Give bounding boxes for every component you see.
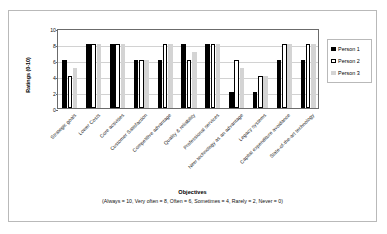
bar (306, 44, 311, 108)
chart-legend: Person 1Person 2Person 3 (327, 39, 372, 83)
bar (192, 52, 197, 108)
x-axis-scale-note: (Always = 10, Very often = 8, Often = 6,… (9, 198, 376, 204)
bar-group (153, 30, 177, 108)
bar-group (296, 30, 320, 108)
bar (258, 76, 263, 108)
legend-swatch-icon (331, 71, 336, 76)
bar (301, 60, 306, 108)
bar (216, 44, 221, 108)
bar-group (201, 30, 225, 108)
bar (181, 44, 186, 108)
bar (311, 44, 316, 108)
bar (144, 60, 149, 108)
bar-group (177, 30, 201, 108)
bar (73, 68, 78, 108)
bar (86, 44, 91, 108)
x-axis-tick-label: Strategic goals (49, 112, 77, 140)
legend-item: Person 1 (331, 43, 369, 55)
bars-layer (58, 30, 318, 108)
bar (163, 44, 168, 108)
bar (229, 92, 234, 108)
bar-group (58, 30, 82, 108)
bar (277, 60, 282, 108)
bar (139, 60, 144, 108)
bar (158, 60, 163, 108)
bar (134, 60, 139, 108)
bar-group (249, 30, 273, 108)
bar (211, 44, 216, 108)
figure-frame: Ratings (0-10) 0246810 Strategic goalsLo… (8, 10, 377, 222)
x-axis-tick-label: State-of-the-art technology (268, 112, 315, 159)
bar (121, 44, 126, 108)
x-axis-title-block: Objectives (Always = 10, Very often = 8,… (9, 189, 376, 204)
bar (115, 44, 120, 108)
legend-swatch-icon (331, 59, 336, 64)
bar (287, 44, 292, 108)
bar (253, 92, 258, 108)
legend-swatch-icon (331, 47, 336, 52)
legend-label: Person 2 (338, 58, 360, 64)
bar (205, 44, 210, 108)
bar (187, 60, 192, 108)
legend-label: Person 1 (338, 46, 360, 52)
legend-item: Person 3 (331, 67, 369, 79)
plot-area: 0246810 (57, 29, 319, 109)
x-axis-title: Objectives (9, 189, 376, 195)
x-axis-tick-label: Lower Costs (77, 112, 101, 136)
bar (62, 60, 67, 108)
bar (97, 44, 102, 108)
x-axis-tick-labels: Strategic goalsLower CostsCore activitie… (57, 110, 319, 196)
bar-group (129, 30, 153, 108)
legend-item: Person 2 (331, 55, 369, 67)
bar (263, 76, 268, 108)
bar (282, 44, 287, 108)
y-axis-title: Ratings (0-10) (23, 29, 33, 109)
bar-group (225, 30, 249, 108)
bar (68, 76, 73, 108)
bar (240, 68, 245, 108)
bar (110, 44, 115, 108)
bar (168, 44, 173, 108)
bar-group (272, 30, 296, 108)
bar-group (106, 30, 130, 108)
bar (91, 44, 96, 108)
y-axis-title-text: Ratings (0-10) (25, 57, 31, 93)
bar (234, 60, 239, 108)
legend-label: Person 3 (338, 70, 360, 76)
bar-group (82, 30, 106, 108)
